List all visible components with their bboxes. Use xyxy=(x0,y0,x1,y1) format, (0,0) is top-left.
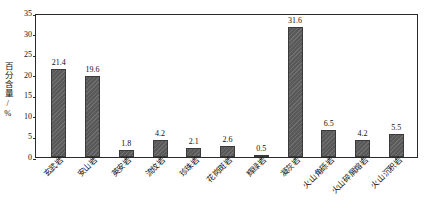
y-axis-tick-label: 15 xyxy=(12,92,32,100)
x-axis-tick-label-text: 安山岩 xyxy=(76,155,99,178)
bar-item[interactable]: 31.6 xyxy=(278,15,312,157)
y-axis-tick-label-group: 05101520253035 xyxy=(12,14,32,158)
bar-rect[interactable] xyxy=(51,69,66,157)
x-axis-tick-label-text: 辉绿岩 xyxy=(245,155,268,178)
bar-item[interactable]: 2.6 xyxy=(211,15,245,157)
y-axis-tick-mark xyxy=(33,35,36,36)
bar-item[interactable]: 6.5 xyxy=(312,15,346,157)
bar-value-label: 2.1 xyxy=(189,138,199,146)
bar-item[interactable]: 1.8 xyxy=(109,15,143,157)
bar-item[interactable]: 4.2 xyxy=(143,15,177,157)
x-axis-tick-label-text: 英安岩 xyxy=(110,155,133,178)
x-axis-tick-label-text: 珍珠岩 xyxy=(177,155,200,178)
y-axis-tick-mark xyxy=(33,15,36,16)
y-axis-tick-label: 20 xyxy=(12,72,32,80)
x-axis-tick-label-text: 玄武岩 xyxy=(42,155,65,178)
x-axis-tick-label-slot: 花岗斑岩 xyxy=(211,159,245,217)
bar-item[interactable]: 19.6 xyxy=(76,15,110,157)
x-axis-tick-label-slot: 安山岩 xyxy=(75,159,109,217)
y-axis-tick-mark xyxy=(33,97,36,98)
bar-value-label: 2.6 xyxy=(223,136,233,144)
bar-chart-figure: 百分含量/% 05101520253035 21.419.61.84.22.12… xyxy=(0,0,429,217)
x-axis-tick-label-slot: 辉绿岩 xyxy=(244,159,278,217)
bar-value-label: 31.6 xyxy=(288,17,302,25)
plot-area: 21.419.61.84.22.12.60.531.66.54.25.5 xyxy=(35,14,418,158)
x-axis-tick-label-slot: 英安岩 xyxy=(109,159,143,217)
x-axis-tick-label-text: 流纹岩 xyxy=(144,155,167,178)
y-axis-tick-label: 5 xyxy=(12,133,32,141)
bar-value-label: 19.6 xyxy=(86,66,100,74)
bar-item[interactable]: 0.5 xyxy=(244,15,278,157)
y-axis-tick-label: 35 xyxy=(12,10,32,18)
x-axis-tick-label-text: 花岗斑岩 xyxy=(206,155,235,184)
x-axis-tick-label-group: 玄武岩安山岩英安岩流纹岩珍珠岩花岗斑岩辉绿岩凝灰岩火山角砾岩火山碎屑熔岩火山沉积… xyxy=(35,159,418,217)
y-axis-tick-mark xyxy=(33,138,36,139)
x-axis-tick-label-slot: 珍珠岩 xyxy=(177,159,211,217)
y-axis-tick-label: 10 xyxy=(12,113,32,121)
bar-series: 21.419.61.84.22.12.60.531.66.54.25.5 xyxy=(36,15,417,157)
y-axis-tick-label: 25 xyxy=(12,51,32,59)
x-axis-tick-label-text: 凝灰岩 xyxy=(279,155,302,178)
bar-rect[interactable] xyxy=(85,76,100,157)
x-axis-tick-label-slot: 流纹岩 xyxy=(143,159,177,217)
y-axis-tick-label: 0 xyxy=(12,154,32,162)
bar-value-label: 0.5 xyxy=(256,145,266,153)
y-axis-tick-mark xyxy=(33,56,36,57)
bar-value-label: 6.5 xyxy=(324,120,334,128)
y-axis-tick-label: 30 xyxy=(12,31,32,39)
x-axis-tick-label-slot: 火山沉积岩 xyxy=(380,159,414,217)
y-axis-tick-mark xyxy=(33,117,36,118)
y-axis-tick-mark xyxy=(33,76,36,77)
bar-value-label: 4.2 xyxy=(155,130,165,138)
bar-value-label: 1.8 xyxy=(121,140,131,148)
bar-item[interactable]: 2.1 xyxy=(177,15,211,157)
x-axis-tick-label-slot: 玄武岩 xyxy=(41,159,75,217)
bar-item[interactable]: 21.4 xyxy=(42,15,76,157)
bar-rect[interactable] xyxy=(288,27,303,157)
bar-value-label: 21.4 xyxy=(52,59,66,67)
